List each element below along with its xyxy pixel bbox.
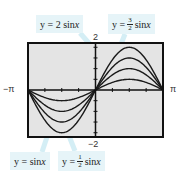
label-var: x [146,19,150,30]
label-text: y = sin [14,156,41,167]
label-var: x [75,19,79,30]
label-2-sin-x: y = 2 sin x [36,15,83,33]
denominator: 2 [78,162,82,169]
label-var: x [41,156,45,167]
fraction: 12 [77,154,83,169]
label-text: sin [135,19,147,30]
fraction: 32 [127,17,133,32]
y-min-label: −2 [88,139,98,149]
label-text: sin [85,156,97,167]
label-text: y = [112,19,125,30]
label-text: y = 2 sin [40,19,75,30]
x-max-label: π [170,84,176,94]
x-min-label: −π [3,84,14,94]
label-3-halves-sin-x: y = 32 sin x [108,14,155,34]
denominator: 2 [128,25,132,32]
label-text: y = [62,156,75,167]
label-var: x [96,156,100,167]
y-max-label: 2 [93,32,98,42]
label-half-sin-x: y = 12 sin x [58,151,105,171]
label-sin-x: y = sin x [10,152,50,170]
